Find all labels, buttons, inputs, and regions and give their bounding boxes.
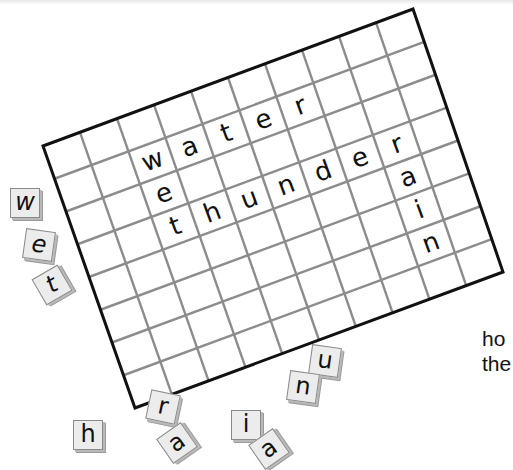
grid-letter-rain: a — [395, 160, 420, 194]
grid-letter-rain: n — [418, 225, 444, 259]
tile-letter: i — [243, 412, 250, 436]
grid-letters: waterethunderain — [137, 89, 443, 259]
grid-letter-water: r — [290, 89, 311, 121]
instruction-line-2: the — [482, 351, 511, 376]
grid-letter-thunder: e — [347, 140, 372, 174]
letter-tile-r[interactable]: r — [145, 389, 181, 425]
grid-letter-water: t — [216, 117, 236, 149]
tile-letter: w — [15, 190, 35, 214]
tile-letter: a — [255, 434, 281, 462]
tile-letter: n — [294, 373, 312, 399]
instruction-line-1: ho — [482, 326, 511, 351]
tile-letter: u — [316, 347, 334, 373]
grid-letter-wet: e — [151, 176, 176, 210]
letter-tile-w[interactable]: w — [10, 188, 40, 218]
grid-letter-rain: i — [411, 194, 428, 225]
grid-letter-thunder: n — [273, 168, 299, 202]
letter-tile-e[interactable]: e — [22, 228, 56, 262]
letter-tile-i[interactable]: i — [231, 410, 261, 440]
grid-letter-thunder: h — [199, 195, 225, 229]
grid-row-line — [112, 206, 481, 342]
grid-letter-thunder: r — [386, 128, 407, 160]
grid-row-line — [124, 239, 492, 375]
grid-letter-water: a — [177, 129, 202, 163]
tile-letter: a — [163, 428, 189, 456]
letter-tile-n[interactable]: n — [286, 370, 320, 404]
instruction-text: ho the — [482, 326, 511, 376]
letter-tile-h[interactable]: h — [73, 420, 103, 450]
grid-letter-thunder: d — [310, 154, 336, 188]
grid-row-line — [55, 42, 425, 179]
grid-lines — [55, 23, 492, 395]
tile-letter: r — [156, 393, 171, 419]
grid-letter-wet: t — [165, 210, 185, 242]
tile-letter: t — [41, 271, 61, 296]
grid-letter-water: w — [137, 142, 167, 178]
tile-letter: e — [30, 231, 48, 257]
tile-letter: h — [80, 422, 95, 446]
grid-letter-water: e — [250, 102, 275, 136]
grid-letter-thunder: u — [236, 181, 262, 215]
